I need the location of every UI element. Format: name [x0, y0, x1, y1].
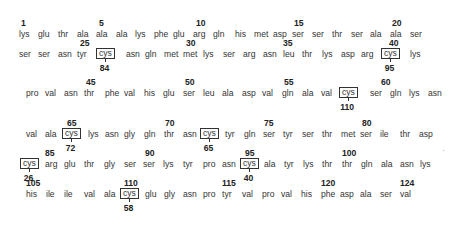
- residue: gln: [282, 88, 293, 98]
- residue: asn: [183, 129, 197, 139]
- position-number: 120: [321, 178, 335, 188]
- residue: asn: [126, 49, 140, 59]
- cysteine-residue: cys: [200, 128, 219, 139]
- residue: val: [400, 189, 411, 199]
- residue: gly: [104, 159, 115, 169]
- position-number: 45: [86, 77, 96, 87]
- residue: ala: [302, 88, 313, 98]
- residue: his: [26, 189, 37, 199]
- residue: ser: [223, 49, 235, 59]
- residue: thr: [84, 159, 94, 169]
- position-number: 65: [67, 118, 77, 128]
- position-number: 30: [186, 38, 196, 48]
- residue: ile: [380, 129, 389, 139]
- residue: asp: [341, 49, 355, 59]
- residue: asn: [428, 88, 442, 98]
- disulfide-partner-label: 95: [385, 63, 395, 73]
- residue: tyr: [183, 159, 193, 169]
- position-number: 115: [222, 178, 236, 188]
- residue: gly: [164, 189, 175, 199]
- residue: ser: [302, 129, 314, 139]
- residue: gly: [124, 129, 135, 139]
- position-number: 55: [284, 77, 294, 87]
- residue: gln: [144, 129, 155, 139]
- residue: thr: [342, 159, 352, 169]
- residue: lys: [322, 49, 333, 59]
- residue: lys: [420, 159, 431, 169]
- disulfide-partner-label: 84: [100, 63, 110, 73]
- residue: lys: [88, 129, 99, 139]
- position-number: 100: [342, 148, 356, 158]
- residue: pro: [26, 88, 38, 98]
- residue: lys: [303, 159, 314, 169]
- residue: ala: [222, 88, 233, 98]
- residue: ser: [183, 88, 195, 98]
- residue: glu: [163, 88, 174, 98]
- cysteine-residue: cys: [120, 188, 139, 199]
- residue: ile: [46, 189, 55, 199]
- bridge-tick: [390, 59, 391, 62]
- residue: asn: [400, 159, 414, 169]
- position-number: 5: [99, 18, 104, 28]
- bridge-tick: [105, 59, 106, 62]
- residue: gln: [244, 129, 255, 139]
- bridge-tick: [249, 169, 250, 172]
- residue: thr: [322, 129, 332, 139]
- residue: thr: [302, 49, 312, 59]
- residue: ala: [381, 159, 392, 169]
- residue: leu: [203, 88, 214, 98]
- position-number: 110: [124, 178, 138, 188]
- position-number: 40: [389, 38, 399, 48]
- position-number: 25: [80, 38, 90, 48]
- residue: ile: [64, 189, 73, 199]
- residue: glu: [145, 189, 156, 199]
- residue: lys: [203, 49, 214, 59]
- sequence-row: 45505560provalasnthrphevalhisgluserleual…: [0, 77, 454, 117]
- residue: lys: [409, 88, 420, 98]
- residue: asn: [222, 159, 236, 169]
- residue: val: [242, 189, 253, 199]
- bridge-tick: [348, 98, 349, 101]
- residue: ser: [143, 159, 155, 169]
- residue: ser: [19, 49, 31, 59]
- position-number: 1: [21, 18, 26, 28]
- residue: thr: [84, 88, 94, 98]
- residue: tyr: [77, 49, 87, 59]
- position-number: 15: [294, 18, 304, 28]
- residue: ser: [124, 159, 136, 169]
- residue: ser: [38, 49, 50, 59]
- residue: asn: [58, 49, 72, 59]
- residue: val: [26, 129, 37, 139]
- residue: thr: [400, 129, 410, 139]
- position-number: 124: [400, 178, 414, 188]
- residue: ala: [104, 189, 115, 199]
- residue: ala: [360, 189, 371, 199]
- sequence-row: 25303540serserasntyrcysasnglnmetmetlysse…: [0, 38, 454, 78]
- bridge-tick: [71, 139, 72, 142]
- position-number: 105: [26, 178, 40, 188]
- cysteine-residue: cys: [62, 128, 81, 139]
- residue: his: [301, 189, 312, 199]
- cysteine-residue: cys: [20, 158, 39, 169]
- position-number: 80: [362, 118, 372, 128]
- residue: tyr: [283, 129, 293, 139]
- residue: val: [281, 189, 292, 199]
- residue: lys: [163, 159, 174, 169]
- residue: arg: [45, 159, 57, 169]
- residue: ala: [45, 129, 56, 139]
- residue: val: [124, 88, 135, 98]
- residue: leu: [283, 49, 294, 59]
- residue: tyr: [222, 189, 232, 199]
- position-number: 75: [264, 118, 274, 128]
- residue: arg: [243, 49, 255, 59]
- residue: val: [262, 88, 273, 98]
- residue: his: [144, 88, 155, 98]
- residue: met: [183, 49, 197, 59]
- residue: asp: [419, 129, 433, 139]
- position-number: 50: [185, 77, 195, 87]
- residue: pro: [203, 159, 215, 169]
- cysteine-residue: cys: [381, 48, 400, 59]
- bridge-tick: [129, 199, 130, 202]
- residue: ser: [360, 129, 372, 139]
- residue: phe: [321, 189, 335, 199]
